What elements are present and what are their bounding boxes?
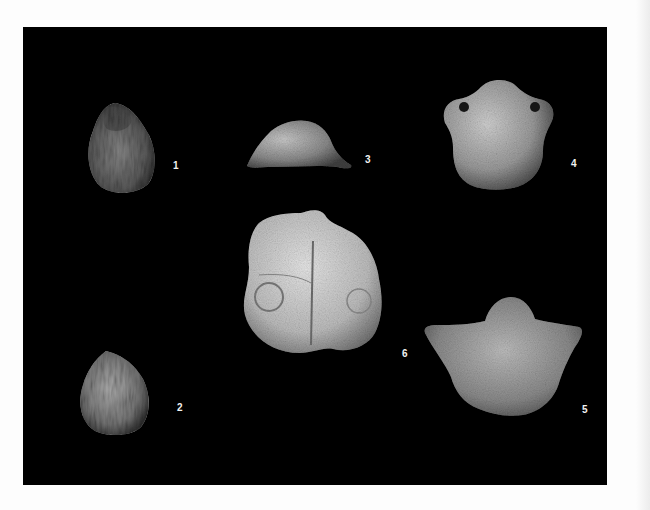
- specimen-5: [425, 297, 582, 416]
- specimen-2: [80, 351, 148, 435]
- specimen-label-1: 1: [173, 161, 179, 171]
- page-edge-shadow: [636, 0, 650, 510]
- specimen-label-2: 2: [177, 403, 183, 413]
- specimen-label-5: 5: [582, 405, 588, 415]
- specimens-illustration: [23, 27, 607, 485]
- specimen-3: [247, 120, 351, 168]
- specimen-1: [88, 103, 154, 193]
- specimen-label-4: 4: [571, 159, 577, 169]
- fossil-plate: 1 2 3 4 5 6: [23, 27, 607, 485]
- specimen-6: [244, 210, 382, 353]
- specimen-label-6: 6: [402, 349, 408, 359]
- specimen-4: [444, 80, 554, 190]
- specimen-label-3: 3: [365, 155, 371, 165]
